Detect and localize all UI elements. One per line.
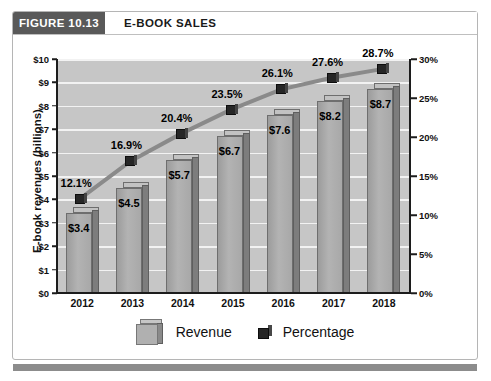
y-axis-tick-label: $9	[15, 77, 49, 88]
y-axis-tick-label: $10	[15, 54, 49, 65]
percentage-marker	[226, 105, 236, 115]
legend-label-revenue: Revenue	[176, 324, 232, 340]
percentage-marker	[377, 64, 387, 74]
percentage-value-label: 28.7%	[362, 47, 393, 59]
bar-front-face	[317, 101, 343, 293]
y-axis-tick-label: $0	[15, 288, 49, 299]
right-axis-tick-mark	[411, 214, 417, 216]
figure-title: E-BOOK SALES	[105, 12, 477, 34]
bar-side-face	[192, 157, 199, 293]
percentage-marker	[176, 129, 186, 139]
percentage-value-label: 23.5%	[211, 88, 242, 100]
revenue-swatch-icon	[136, 319, 166, 345]
bar-value-label: $6.7	[219, 145, 240, 157]
right-axis-tick-mark	[411, 175, 417, 177]
bar-value-label: $8.7	[370, 98, 391, 110]
bar-value-label: $3.4	[68, 222, 89, 234]
figure-container: FIGURE 10.13 E-BOOK SALES E-book revenue…	[0, 0, 491, 381]
bar	[267, 109, 300, 293]
bar-value-label: $4.5	[118, 197, 139, 209]
y-axis-tick-mark	[52, 222, 57, 224]
percentage-marker	[327, 73, 337, 83]
bar-side-face	[343, 98, 350, 293]
y-axis-tick-label: $8	[15, 100, 49, 111]
y-axis-tick-mark	[52, 152, 57, 154]
bar-side-face	[243, 133, 250, 293]
y-axis-tick-mark	[52, 199, 57, 201]
y-axis-tick-label: $4	[15, 194, 49, 205]
x-axis-tick-label: 2014	[158, 297, 208, 309]
y-axis-tick-label: $7	[15, 124, 49, 135]
x-axis-tick-label: 2018	[359, 297, 409, 309]
y-axis-tick-mark	[52, 245, 57, 247]
right-axis-tick-mark	[411, 97, 417, 99]
right-axis-tick-label: 0%	[419, 288, 453, 299]
percentage-value-label: 16.9%	[111, 139, 142, 151]
bar-value-label: $5.7	[168, 169, 189, 181]
y-axis-tick-mark	[52, 128, 57, 130]
right-axis-tick-label: 5%	[419, 249, 453, 260]
percentage-swatch-icon	[258, 325, 273, 339]
right-axis-tick-mark	[411, 292, 417, 294]
chart-legend: Revenue Percentage	[13, 319, 477, 345]
bottom-axis-line	[56, 292, 411, 294]
y-axis-tick-mark	[52, 82, 57, 84]
right-axis-tick-label: 20%	[419, 132, 453, 143]
bar	[66, 207, 99, 293]
y-axis-tick-mark	[52, 292, 57, 294]
bar-side-face	[92, 210, 99, 293]
bar-front-face	[267, 115, 293, 293]
legend-label-percentage: Percentage	[283, 324, 355, 340]
percentage-value-label: 26.1%	[262, 67, 293, 79]
figure-number-tab: FIGURE 10.13	[13, 12, 105, 34]
y-axis-tick-label: $2	[15, 241, 49, 252]
percentage-value-label: 12.1%	[61, 177, 92, 189]
right-axis-tick-mark	[411, 136, 417, 138]
figure-bottom-accent	[13, 364, 477, 371]
right-axis-tick-label: 25%	[419, 93, 453, 104]
y-axis-tick-mark	[52, 175, 57, 177]
y-axis-tick-mark	[52, 269, 57, 271]
y-axis-tick-mark	[52, 58, 57, 60]
bar-side-face	[393, 86, 400, 293]
right-axis-tick-label: 10%	[419, 210, 453, 221]
x-axis-tick-label: 2017	[309, 297, 359, 309]
chart-area: E-book revenues (billions) $3.4$4.5$5.7$…	[13, 35, 477, 360]
figure-header: FIGURE 10.13 E-BOOK SALES	[13, 12, 477, 34]
y-axis-tick-label: $3	[15, 217, 49, 228]
right-axis-tick-label: 15%	[419, 171, 453, 182]
bar-side-face	[142, 185, 149, 293]
gridline	[57, 59, 409, 61]
bar-side-face	[293, 112, 300, 293]
x-axis-tick-label: 2012	[57, 297, 107, 309]
bar-value-label: $8.2	[319, 110, 340, 122]
percentage-marker	[276, 84, 286, 94]
y-axis-tick-label: $6	[15, 147, 49, 158]
y-axis-tick-label: $5	[15, 171, 49, 182]
percentage-value-label: 27.6%	[312, 56, 343, 68]
bar-value-label: $7.6	[269, 124, 290, 136]
bar-front-face	[367, 89, 393, 293]
x-axis-tick-label: 2013	[107, 297, 157, 309]
right-axis-tick-mark	[411, 58, 417, 60]
gridline	[57, 82, 409, 84]
right-axis-tick-label: 30%	[419, 54, 453, 65]
bar	[367, 83, 400, 293]
x-axis-tick-label: 2016	[258, 297, 308, 309]
percentage-value-label: 20.4%	[161, 112, 192, 124]
right-axis-tick-mark	[411, 253, 417, 255]
percentage-marker	[75, 194, 85, 204]
bar	[317, 95, 350, 293]
percentage-marker	[125, 156, 135, 166]
x-axis-tick-label: 2015	[208, 297, 258, 309]
plot-wrapper: $3.4$4.5$5.7$6.7$7.6$8.2$8.7 12.1%16.9%2…	[57, 59, 409, 293]
y-axis-tick-mark	[52, 105, 57, 107]
bar-front-face	[217, 136, 243, 293]
y-axis-tick-label: $1	[15, 264, 49, 275]
